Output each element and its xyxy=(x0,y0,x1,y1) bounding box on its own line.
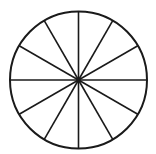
center-point xyxy=(76,78,80,82)
sector-line xyxy=(79,46,138,80)
sector-line xyxy=(79,21,113,80)
sector-line xyxy=(79,80,113,139)
sector-line xyxy=(19,46,78,80)
sector-line xyxy=(19,80,78,114)
sector-line xyxy=(44,21,78,80)
sector-line xyxy=(79,80,138,114)
divided-circle-diagram xyxy=(0,0,156,154)
sector-line xyxy=(44,80,78,139)
